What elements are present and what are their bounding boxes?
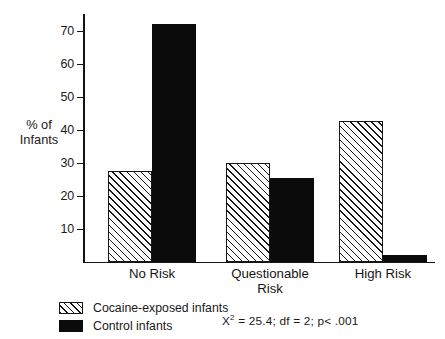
- y-axis-tick-label: 60: [60, 57, 74, 71]
- bar-control-2: [383, 255, 427, 262]
- bars-layer: [83, 14, 435, 262]
- legend-label-cocaine-exposed: Cocaine-exposed infants: [93, 301, 228, 315]
- annotation-rest: = 25.4; df = 2; p< .001: [235, 314, 359, 328]
- legend-label-control: Control infants: [93, 319, 172, 333]
- x-axis-category-labels: No RiskQuestionable RiskHigh Risk: [83, 267, 435, 301]
- legend-swatch-solid-icon: [59, 320, 83, 333]
- chi-square-annotation: X2 = 25.4; df = 2; p< .001: [222, 313, 359, 328]
- x-axis-category-label: High Risk: [313, 267, 445, 282]
- y-axis-tick-label: 50: [60, 90, 74, 104]
- bar-chart: % of Infants 10203040506070 No RiskQuest…: [0, 0, 445, 339]
- bar-cocaine-exposed-0: [108, 171, 152, 262]
- bar-control-0: [152, 24, 196, 262]
- y-axis-tick-label: 20: [60, 189, 74, 203]
- bar-cocaine-exposed-2: [339, 121, 383, 262]
- y-axis-tick-label: 10: [60, 222, 74, 236]
- annotation-prefix: X: [222, 314, 230, 328]
- legend-swatch-hatched-icon: [59, 302, 83, 315]
- y-axis-tick-label: 40: [60, 123, 74, 137]
- y-axis-tick-label: 30: [60, 156, 74, 170]
- bar-control-1: [270, 178, 314, 262]
- bar-cocaine-exposed-1: [226, 163, 270, 262]
- y-axis-tick-label: 70: [60, 24, 74, 38]
